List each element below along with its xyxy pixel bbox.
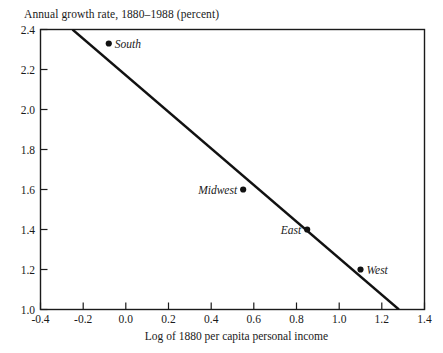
x-tick-label: 1.0 — [332, 313, 347, 325]
chart-page: Annual growth rate, 1880–1988 (percent) — [0, 0, 443, 353]
x-tick-label: 0.0 — [119, 313, 134, 325]
x-tick-label: 0.2 — [161, 313, 176, 325]
data-points-layer: SouthMidwestEastWest — [106, 38, 389, 276]
data-point-label: Midwest — [197, 184, 238, 196]
x-tick-label: 0.4 — [204, 313, 219, 325]
y-tick-label: 1.8 — [21, 144, 36, 156]
data-point-marker[interactable] — [106, 40, 112, 46]
x-axis-ticks — [41, 303, 425, 310]
x-tick-label: 0.6 — [247, 313, 262, 325]
data-point-label: West — [367, 264, 389, 276]
data-point-label: East — [280, 224, 302, 236]
y-tick-label: 2.2 — [21, 64, 36, 76]
y-tick-label: 2.4 — [21, 24, 36, 36]
y-tick-label: 2.0 — [21, 104, 36, 116]
scatter-plot-figure: 1.0 1.2 1.4 1.6 1.8 2.0 2.2 2.4 -0.4 -0.… — [0, 0, 443, 353]
y-tick-label: 1.2 — [21, 264, 36, 276]
x-tick-label: -0.4 — [31, 313, 49, 325]
x-tick-label: -0.2 — [74, 313, 92, 325]
y-tick-label: 1.6 — [21, 184, 36, 196]
x-tick-label: 1.2 — [375, 313, 390, 325]
data-point-label: South — [115, 38, 141, 50]
y-tick-label: 1.4 — [21, 224, 36, 236]
x-axis-title: Log of 1880 per capita personal income — [0, 330, 443, 342]
data-point-marker[interactable] — [304, 226, 310, 232]
data-point-marker[interactable] — [357, 266, 363, 272]
fitted-regression-line — [73, 30, 399, 310]
y-axis-ticks — [41, 30, 48, 310]
x-axis-tick-labels: -0.4 -0.2 0.0 0.2 0.4 0.6 0.8 1.0 1.2 1.… — [31, 313, 432, 325]
data-point-marker[interactable] — [240, 186, 246, 192]
x-tick-label: 1.4 — [417, 313, 432, 325]
y-axis-tick-labels: 1.0 1.2 1.4 1.6 1.8 2.0 2.2 2.4 — [21, 24, 36, 316]
x-tick-label: 0.8 — [289, 313, 304, 325]
